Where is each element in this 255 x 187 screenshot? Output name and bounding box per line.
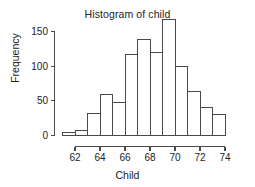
bars-group bbox=[63, 20, 226, 136]
histogram-bar bbox=[138, 40, 151, 136]
plot-area: 050100150 62646668707274 bbox=[0, 0, 255, 187]
histogram-bar bbox=[100, 95, 113, 136]
histogram-bar bbox=[213, 115, 226, 136]
histogram-bar bbox=[163, 20, 176, 136]
y-tick-label: 0 bbox=[42, 130, 48, 141]
histogram-bar bbox=[200, 107, 213, 135]
y-tick-label: 100 bbox=[31, 61, 48, 72]
y-tick-label: 150 bbox=[31, 26, 48, 37]
x-axis: 62646668707274 bbox=[69, 147, 231, 163]
histogram-figure: Histogram of child Frequency Child 05010… bbox=[0, 0, 255, 187]
histogram-bar bbox=[75, 131, 88, 136]
histogram-bar bbox=[175, 67, 188, 136]
y-tick-label: 50 bbox=[37, 95, 49, 106]
x-tick-label: 72 bbox=[194, 152, 206, 163]
x-tick-label: 62 bbox=[69, 152, 81, 163]
x-tick-label: 70 bbox=[169, 152, 181, 163]
x-tick-label: 64 bbox=[94, 152, 106, 163]
histogram-bar bbox=[150, 52, 163, 135]
histogram-bar bbox=[125, 54, 138, 135]
histogram-bar bbox=[88, 113, 101, 135]
histogram-bar bbox=[63, 132, 76, 135]
histogram-bar bbox=[113, 102, 126, 135]
histogram-bar bbox=[188, 91, 201, 135]
x-tick-label: 66 bbox=[119, 152, 131, 163]
x-tick-label: 74 bbox=[219, 152, 231, 163]
y-axis: 050100150 bbox=[31, 26, 54, 141]
x-tick-label: 68 bbox=[144, 152, 156, 163]
